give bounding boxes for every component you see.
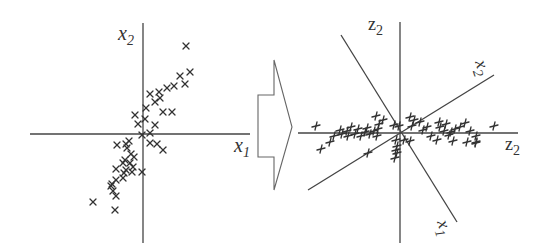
plus-marker	[364, 149, 372, 157]
x-marker	[90, 199, 96, 205]
right-scatter-points	[312, 112, 498, 162]
x-marker	[147, 140, 153, 146]
x-marker	[156, 89, 162, 95]
x-marker	[129, 169, 135, 175]
plus-marker	[466, 127, 474, 135]
x-marker	[139, 169, 145, 175]
plus-marker	[490, 122, 498, 130]
x-marker	[120, 160, 126, 166]
x-marker	[114, 142, 120, 148]
plus-marker	[317, 145, 325, 153]
left-x1-axis-label: x1	[233, 134, 250, 160]
x-marker	[160, 147, 166, 153]
x-marker	[154, 141, 160, 147]
x-marker	[187, 69, 193, 75]
x-marker	[120, 175, 126, 181]
plus-marker	[440, 127, 448, 135]
x-marker	[160, 109, 166, 115]
plus-marker	[408, 122, 416, 130]
left-panel: x2 x1	[30, 22, 250, 243]
plus-marker	[449, 137, 457, 145]
x-marker	[164, 85, 170, 91]
rotated-x2-label: x2	[467, 56, 495, 79]
x-marker	[157, 95, 163, 101]
x-marker	[169, 109, 175, 115]
right-z2-horizontal-label: z2	[505, 134, 520, 158]
x-marker	[143, 105, 149, 111]
transform-arrow-icon	[258, 60, 292, 190]
x-marker	[126, 138, 132, 144]
pca-transformation-diagram: x2 x1 z2 z2 x2 x1	[0, 0, 550, 244]
plus-marker	[433, 136, 441, 144]
right-z2-vertical-label: z2	[368, 14, 383, 38]
plus-marker	[391, 154, 399, 162]
x-marker	[152, 122, 158, 128]
x-marker	[177, 73, 183, 79]
x-marker	[171, 83, 177, 89]
x-marker	[139, 132, 145, 138]
plus-marker	[312, 122, 320, 130]
x-marker	[113, 166, 119, 172]
x-marker	[147, 91, 153, 97]
x-marker	[131, 154, 137, 160]
plus-marker	[363, 124, 371, 132]
x-marker	[112, 207, 118, 213]
right-panel: z2 z2 x2 x1	[298, 14, 520, 243]
x-marker	[182, 81, 188, 87]
x-marker	[183, 43, 189, 49]
left-x2-axis-label: x2	[117, 22, 134, 48]
x-marker	[135, 121, 141, 127]
x-marker	[147, 130, 153, 136]
left-scatter-points	[90, 43, 193, 213]
plus-marker	[372, 112, 380, 120]
rotated-x1-label: x1	[429, 216, 457, 239]
plus-marker	[463, 138, 471, 146]
x-marker	[152, 99, 158, 105]
x-marker	[132, 112, 138, 118]
